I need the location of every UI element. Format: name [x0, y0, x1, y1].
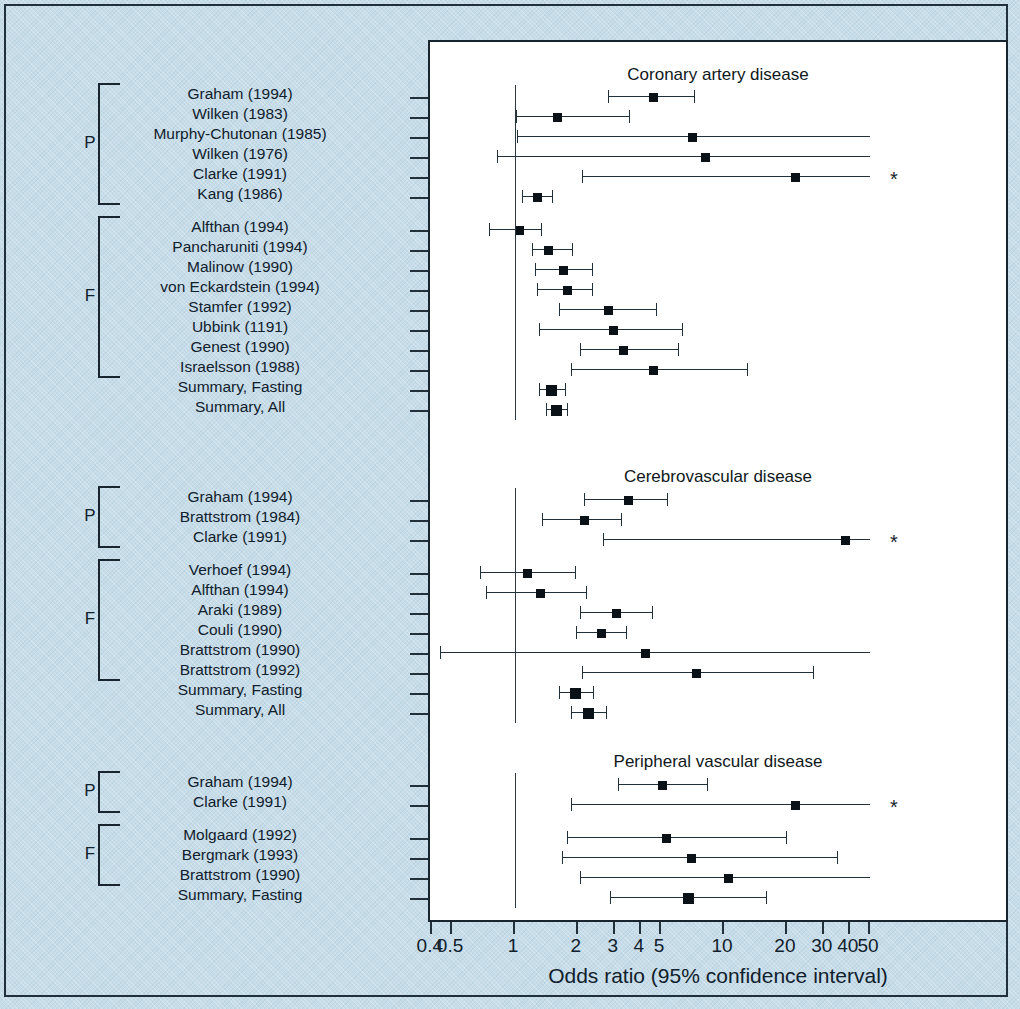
ci-lower-cap — [584, 493, 585, 506]
confidence-interval-row — [532, 243, 574, 257]
study-label: Araki (1989) — [80, 603, 400, 617]
odds-ratio-marker — [791, 173, 800, 182]
ci-upper-cap — [656, 303, 657, 316]
forest-plot-inner: Coronary artery disease*Cerebrovascular … — [430, 42, 1006, 920]
ci-upper-cap — [707, 778, 708, 791]
study-label: Ubbink (1191) — [80, 320, 400, 334]
ci-lower-cap — [517, 130, 518, 143]
row-tick — [410, 137, 428, 139]
truncation-asterisk: * — [890, 536, 898, 548]
ci-upper-cap — [586, 586, 587, 599]
x-tick — [868, 922, 870, 934]
odds-ratio-marker — [791, 801, 800, 810]
x-axis: 0.40.5123451020304050 Odds ratio (95% co… — [428, 922, 1008, 1002]
odds-ratio-marker — [559, 266, 568, 275]
confidence-interval-row — [517, 130, 870, 144]
ci-upper-cap — [592, 283, 593, 296]
odds-ratio-marker — [658, 781, 667, 790]
study-label: Malinow (1990) — [80, 260, 400, 274]
study-label-column: Graham (1994)Wilken (1983)MMurphy-Chuton… — [80, 0, 400, 1009]
row-tick — [410, 117, 428, 119]
confidence-interval-row — [576, 626, 628, 640]
ci-line — [571, 369, 748, 370]
study-label: Graham (1994) — [80, 490, 400, 504]
group-bracket — [98, 486, 120, 548]
ci-upper-cap — [626, 626, 627, 639]
confidence-interval-row — [539, 383, 566, 397]
row-tick — [410, 898, 428, 900]
ci-upper-cap — [786, 831, 787, 844]
ci-lower-cap — [571, 706, 572, 719]
x-tick — [450, 922, 452, 934]
x-tick — [613, 922, 615, 934]
ci-lower-cap — [497, 150, 498, 163]
group-label-p: P — [80, 133, 100, 153]
ci-lower-cap — [582, 170, 583, 183]
ci-lower-cap — [580, 871, 581, 884]
ci-lower-cap — [580, 343, 581, 356]
row-tick — [410, 250, 428, 252]
confidence-interval-row — [516, 110, 630, 124]
x-tick — [785, 922, 787, 934]
study-label: Stamfer (1992) — [80, 300, 400, 314]
ci-line — [562, 857, 838, 858]
forest-plot-area: Coronary artery disease*Cerebrovascular … — [428, 40, 1008, 922]
x-tick — [639, 922, 641, 934]
confidence-interval-row — [580, 871, 870, 885]
confidence-interval-row — [571, 706, 607, 720]
row-tick — [410, 330, 428, 332]
study-label: Brattstrom (1990) — [80, 868, 400, 882]
ci-upper-cap — [565, 383, 566, 396]
confidence-interval-row — [571, 363, 748, 377]
ci-upper-cap — [766, 891, 767, 904]
ci-upper-cap — [747, 363, 748, 376]
odds-ratio-marker — [701, 153, 710, 162]
ci-lower-cap — [576, 626, 577, 639]
confidence-interval-row — [610, 891, 767, 905]
odds-ratio-marker — [724, 874, 733, 883]
truncation-asterisk: * — [890, 173, 898, 185]
ci-upper-cap — [837, 851, 838, 864]
ci-lower-cap — [567, 831, 568, 844]
study-label: Summary, All — [80, 703, 400, 717]
row-tick — [410, 370, 428, 372]
ci-upper-cap — [567, 403, 568, 416]
ci-upper-cap — [593, 686, 594, 699]
confidence-interval-row — [608, 90, 695, 104]
row-tick — [410, 713, 428, 715]
x-tick — [430, 922, 432, 934]
odds-ratio-marker — [641, 649, 650, 658]
confidence-interval-row — [603, 533, 870, 547]
confidence-interval-row — [539, 323, 684, 337]
study-label: von Eckardstein (1994) — [80, 280, 400, 294]
ci-upper-cap — [813, 666, 814, 679]
odds-ratio-marker — [553, 113, 562, 122]
ci-upper-cap — [629, 110, 630, 123]
row-tick — [410, 310, 428, 312]
x-axis-title: Odds ratio (95% confidence interval) — [428, 964, 1008, 988]
reference-line — [515, 85, 516, 420]
odds-ratio-marker — [683, 893, 694, 904]
ci-lower-cap — [608, 90, 609, 103]
study-label: Bergmark (1993) — [80, 848, 400, 862]
x-tick — [659, 922, 661, 934]
study-label: Summary, Fasting — [80, 380, 400, 394]
group-label-f: F — [80, 286, 100, 306]
row-tick — [410, 573, 428, 575]
x-tick-label: 20 — [774, 935, 795, 957]
confidence-interval-row — [535, 263, 592, 277]
x-tick — [513, 922, 515, 934]
ci-lower-cap — [440, 646, 441, 659]
group-label-f: F — [80, 844, 100, 864]
group-bracket — [98, 559, 120, 681]
figure-canvas: Graham (1994)Wilken (1983)MMurphy-Chuton… — [0, 0, 1020, 1009]
odds-ratio-marker — [662, 834, 671, 843]
study-label: Summary, Fasting — [80, 683, 400, 697]
study-label: Wilken (1976) — [80, 147, 400, 161]
confidence-interval-row — [582, 170, 870, 184]
ci-lower-cap — [546, 403, 547, 416]
panel-title: Peripheral vascular disease — [430, 752, 1006, 772]
row-tick — [410, 653, 428, 655]
row-tick — [410, 805, 428, 807]
ci-lower-cap — [559, 686, 560, 699]
